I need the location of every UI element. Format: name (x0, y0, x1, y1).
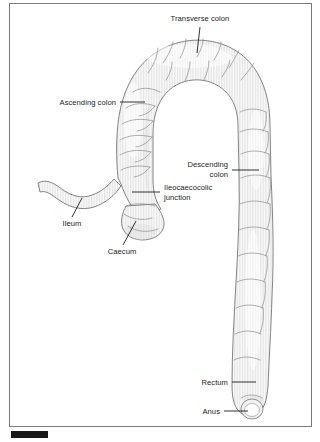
large-intestine-body (38, 39, 273, 419)
anus-orifice (241, 399, 263, 419)
label-ascending-colon: Ascending colon (60, 98, 116, 107)
ileum-segment (38, 179, 121, 209)
label-descending-colon-line2: colon (210, 170, 228, 179)
label-transverse-colon: Transverse colon (171, 14, 230, 23)
figure-root: Transverse colon Ascending colon Descend… (0, 0, 320, 442)
label-anus: Anus (202, 407, 220, 416)
label-ileocaecocolic-junction-line2: junction (163, 193, 191, 202)
label-rectum: Rectum (202, 378, 228, 387)
label-caecum: Caecum (108, 247, 137, 256)
label-ileocaecocolic-junction-line1: Ileocaecocolic (164, 183, 213, 192)
scale-bar (11, 431, 48, 438)
label-ileum: Ileum (63, 219, 82, 228)
label-descending-colon-line1: Descending (187, 160, 228, 169)
large-intestine-diagram: Transverse colon Ascending colon Descend… (0, 0, 320, 442)
